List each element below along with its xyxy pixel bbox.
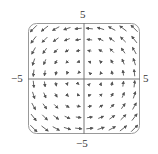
vector-arrow (121, 48, 125, 53)
vector-arrow (120, 126, 127, 131)
vector-arrow (31, 36, 36, 43)
vector-arrow (109, 38, 114, 42)
vector-arrow (89, 73, 90, 74)
vector-arrow (133, 59, 135, 66)
vector-arrow (67, 83, 68, 85)
vector-arrow (98, 127, 105, 129)
vector-arrow (43, 48, 47, 53)
vector-arrow (77, 61, 79, 62)
vector-arrow (109, 27, 116, 31)
vector-arrow (42, 26, 49, 31)
vector-arrow (98, 39, 103, 41)
vector-arrow (132, 36, 137, 43)
vector-arrow (132, 114, 137, 121)
vector-arrow (56, 71, 57, 75)
vector-arrow (64, 127, 71, 129)
vector-arrow (32, 47, 36, 54)
vector-arrow (55, 93, 57, 97)
vector-arrow (134, 70, 135, 77)
vector-arrow (112, 82, 113, 86)
vector-arrow (100, 83, 101, 85)
vector-arrow (32, 103, 36, 110)
vector-arrow (44, 82, 45, 87)
vector-arrow (78, 84, 79, 85)
vector-arrow (77, 95, 79, 96)
vector-arrow (86, 128, 93, 129)
vector-arrow (77, 106, 81, 107)
vector-arrow (112, 71, 113, 75)
vector-arrow (65, 105, 69, 107)
vector-arrow (131, 125, 138, 132)
vector-arrow (89, 84, 90, 85)
vector-arrow (66, 61, 68, 63)
vector-arrow (44, 59, 46, 64)
vector-arrow (131, 25, 138, 32)
vector-arrow (109, 127, 116, 131)
vector-arrow (98, 116, 103, 118)
vector-arrow (65, 50, 69, 52)
vector-arrow (30, 25, 37, 32)
vector-arrow (33, 81, 34, 88)
vector-arrow (87, 117, 92, 118)
vector-arrow (75, 28, 82, 29)
vector-arrow (99, 105, 103, 107)
y-max-label: 5 (80, 9, 86, 20)
vector-arrow (53, 27, 60, 31)
vector-arrow (53, 127, 60, 131)
vector-arrow (109, 116, 114, 120)
vector-arrow (110, 104, 114, 108)
vector-arrow (31, 114, 36, 121)
vector-arrow (42, 37, 47, 42)
vector-arrow (64, 27, 71, 29)
vector-arrow (87, 39, 92, 40)
y-min-label: −5 (76, 138, 88, 149)
vector-arrow (54, 49, 58, 53)
vector-arrow (66, 94, 68, 96)
vector-arrow (54, 104, 58, 108)
vector-arrow (100, 61, 102, 63)
vector-arrow (65, 39, 70, 41)
vector-arrow (99, 50, 103, 52)
vector-arrow (78, 73, 79, 74)
vector-arrow (33, 70, 34, 77)
vector-arrow (44, 93, 46, 98)
vector-arrow (33, 92, 35, 99)
vector-arrow (65, 116, 70, 118)
vector-arrow (89, 61, 91, 62)
vector-arrow (89, 95, 91, 96)
vector-arrow (53, 38, 58, 42)
vector-arrow (121, 115, 126, 120)
vector-arrow (100, 94, 102, 96)
vector-arrow (42, 126, 49, 131)
vector-arrow (111, 60, 113, 64)
vector-arrow (122, 93, 124, 98)
vector-arrow (123, 82, 124, 87)
vector-arrow (133, 103, 137, 110)
vector-arrow (111, 93, 113, 97)
vector-arrow (77, 50, 81, 51)
vector-arrow (134, 81, 135, 88)
vector-arrow (56, 82, 57, 86)
vector-arrow (53, 116, 58, 120)
vector-arrow (30, 125, 37, 132)
vector-arrow (33, 59, 35, 66)
vector-arrow (98, 27, 105, 29)
vector-arrow (122, 59, 124, 64)
vector-arrow (43, 104, 47, 109)
vector-field-plot (0, 0, 158, 154)
vector-arrow (100, 72, 101, 74)
vector-arrow (76, 117, 81, 118)
vector-arrow (55, 60, 57, 64)
vector-arrow (120, 26, 127, 31)
vector-arrow (86, 28, 93, 29)
vector-arrow (67, 72, 68, 74)
vector-arrow (42, 115, 47, 120)
vector-arrow (123, 70, 124, 75)
vector-arrow (110, 49, 114, 53)
vector-arrow (133, 47, 137, 54)
vector-arrow (88, 106, 92, 107)
vector-arrow (88, 50, 92, 51)
x-max-label: 5 (143, 73, 149, 84)
vector-arrow (75, 128, 82, 129)
vector-arrow (133, 92, 135, 99)
